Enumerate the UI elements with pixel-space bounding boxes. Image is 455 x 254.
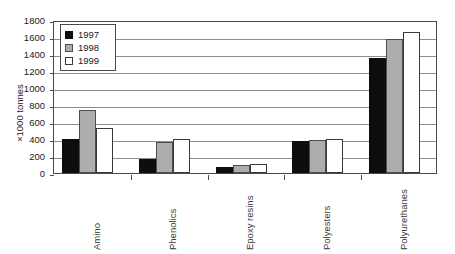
bar (156, 142, 173, 173)
y-axis-tick-labels: 020040060080010001200140016001800 (0, 0, 53, 254)
y-axis-tick-label: 0 (1, 169, 45, 179)
bar (216, 167, 233, 173)
y-axis-tick (50, 141, 54, 142)
legend-item-label: 1999 (78, 55, 99, 66)
x-axis-category-label: Polyesters (321, 206, 332, 250)
legend-item: 1998 (65, 41, 111, 54)
y-axis-tick (50, 107, 54, 108)
bar (369, 58, 386, 173)
bar (173, 139, 190, 173)
bar (326, 139, 343, 173)
legend-swatch-icon (65, 31, 73, 39)
legend-item: 1997 (65, 28, 111, 41)
y-axis-tick (50, 175, 54, 176)
y-axis-tick (50, 22, 54, 23)
y-axis-tick-label: 1200 (1, 67, 45, 77)
x-axis-category-label: Amino (91, 223, 102, 250)
y-axis-tick (50, 158, 54, 159)
bar (233, 165, 250, 173)
title-fragment (78, 0, 378, 5)
y-axis-tick-label: 1600 (1, 33, 45, 43)
bar (386, 39, 403, 173)
y-axis-tick-label: 1800 (1, 16, 45, 26)
y-axis-tick-label: 1000 (1, 84, 45, 94)
bar (62, 139, 79, 173)
bar (309, 140, 326, 173)
y-axis-tick-label: 800 (1, 101, 45, 111)
bar (292, 141, 309, 173)
y-axis-tick-label: 200 (1, 152, 45, 162)
bar-chart: ×1000 tonnes 020040060080010001200140016… (0, 0, 455, 254)
bar (96, 128, 113, 173)
legend-swatch-icon (65, 44, 73, 52)
legend-item-label: 1997 (78, 29, 99, 40)
y-axis-tick (50, 73, 54, 74)
bar (79, 110, 96, 173)
y-axis-tick (50, 56, 54, 57)
bar (403, 32, 420, 173)
legend-swatch-icon (65, 57, 73, 65)
legend-item-label: 1998 (78, 42, 99, 53)
bar (139, 159, 156, 173)
x-axis-category-label: Phenolics (167, 209, 178, 250)
y-axis-tick (50, 124, 54, 125)
y-axis-tick-label: 400 (1, 135, 45, 145)
y-axis-tick-label: 600 (1, 118, 45, 128)
y-axis-tick (50, 90, 54, 91)
x-axis-category-labels: AminoPhenolicsEpoxy resinsPolyestersPoly… (53, 180, 437, 254)
legend: 199719981999 (60, 24, 116, 71)
y-axis-tick (50, 39, 54, 40)
bar (250, 164, 267, 173)
y-axis-tick-label: 1400 (1, 50, 45, 60)
legend-item: 1999 (65, 54, 111, 67)
x-axis-category-label: Epoxy resins (244, 196, 255, 250)
x-axis-category-label: Polyurethanes (398, 189, 409, 250)
